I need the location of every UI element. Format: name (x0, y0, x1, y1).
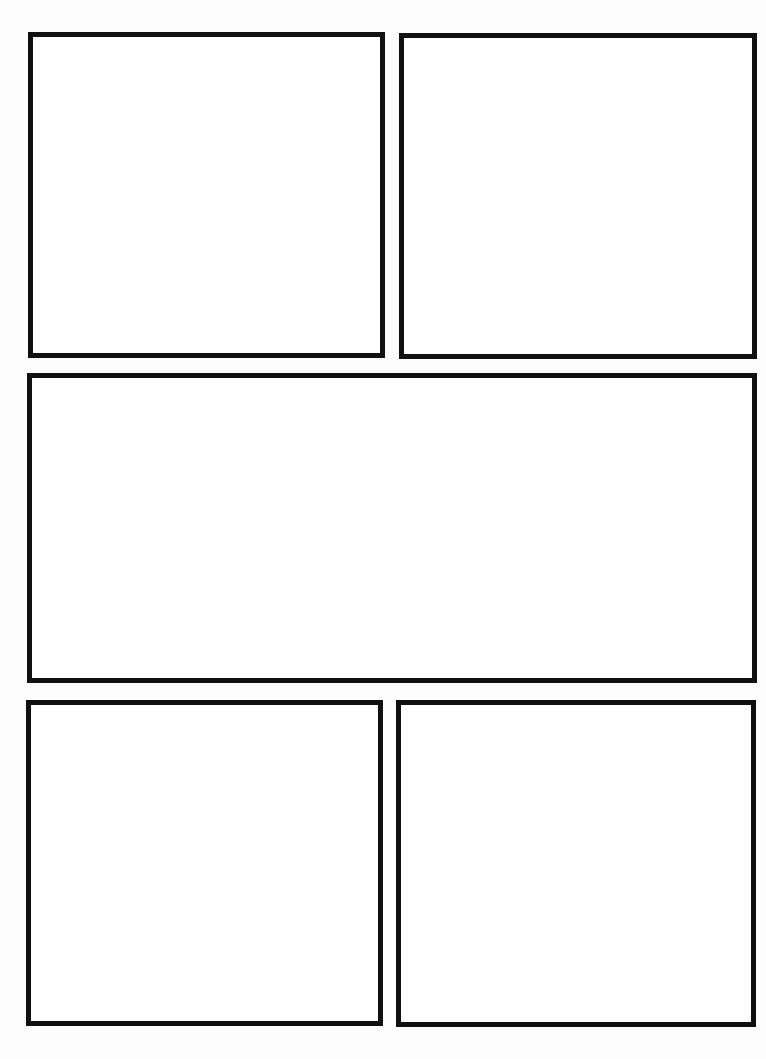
panel-2 (399, 33, 757, 359)
panel-1 (28, 32, 385, 358)
panel-4 (26, 700, 383, 1026)
panel-3-wide (27, 373, 757, 683)
panel-5 (396, 700, 756, 1027)
comic-page (0, 0, 766, 1059)
